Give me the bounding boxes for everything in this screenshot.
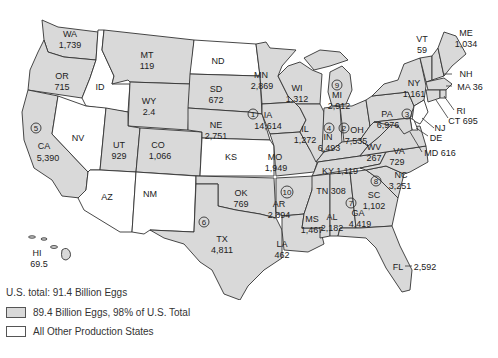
state-ri xyxy=(440,90,446,98)
legend-total: U.S. total: 91.4 Billion Eggs xyxy=(6,287,190,298)
svg-text:VT: VT xyxy=(416,34,428,44)
svg-text:CO: CO xyxy=(151,140,165,150)
svg-text:IN: IN xyxy=(324,132,333,142)
svg-text:WV: WV xyxy=(367,142,382,152)
svg-text:1: 1 xyxy=(251,110,256,119)
svg-text:119: 119 xyxy=(140,61,154,71)
svg-text:59: 59 xyxy=(417,45,427,55)
svg-text:6,976: 6,976 xyxy=(377,120,400,130)
svg-text:4: 4 xyxy=(327,124,332,133)
svg-text:PA: PA xyxy=(381,109,392,119)
svg-text:2,751: 2,751 xyxy=(205,131,228,141)
svg-text:2,592: 2,592 xyxy=(414,262,437,272)
svg-text:14,614: 14,614 xyxy=(254,121,282,131)
svg-text:4,811: 4,811 xyxy=(211,245,233,255)
svg-text:LA: LA xyxy=(276,239,287,249)
svg-text:929: 929 xyxy=(111,151,126,161)
svg-text:9: 9 xyxy=(335,81,340,90)
svg-text:MA 36: MA 36 xyxy=(457,82,483,92)
svg-text:UT: UT xyxy=(113,140,125,150)
svg-text:ND: ND xyxy=(212,56,225,66)
svg-text:267: 267 xyxy=(366,153,381,163)
state-wy xyxy=(128,82,190,130)
svg-text:1,739: 1,739 xyxy=(59,40,82,50)
svg-text:AL: AL xyxy=(326,212,337,222)
legend-label-top-states: 89.4 Billion Eggs, 98% of U.S. Total xyxy=(33,307,190,318)
svg-text:3: 3 xyxy=(405,110,410,119)
svg-text:4,419: 4,419 xyxy=(349,219,372,229)
svg-text:5,390: 5,390 xyxy=(37,153,60,163)
svg-text:7,535: 7,535 xyxy=(345,136,368,146)
state-mi xyxy=(328,66,352,106)
svg-text:AR: AR xyxy=(273,199,286,209)
legend-label-other-states: All Other Production States xyxy=(33,326,154,337)
svg-text:NC: NC xyxy=(395,170,408,180)
us-egg-production-map: WA1,739 OR715 CA5,390 ID NV MT119 WY2.4 … xyxy=(0,0,498,300)
svg-text:729: 729 xyxy=(389,157,404,167)
svg-text:AZ: AZ xyxy=(101,192,113,202)
svg-text:672: 672 xyxy=(208,95,223,105)
svg-text:769: 769 xyxy=(233,199,248,209)
svg-text:TN 308: TN 308 xyxy=(316,186,346,196)
svg-text:NY: NY xyxy=(408,78,421,88)
svg-text:TX: TX xyxy=(216,234,228,244)
svg-text:1,066: 1,066 xyxy=(149,151,172,161)
svg-text:2.4: 2.4 xyxy=(143,107,156,117)
state-ct xyxy=(426,90,440,102)
legend-item-top-states: 89.4 Billion Eggs, 98% of U.S. Total xyxy=(6,304,190,320)
svg-text:69.5: 69.5 xyxy=(30,259,48,269)
state-fl xyxy=(338,226,412,292)
svg-text:IA: IA xyxy=(264,110,273,120)
svg-text:OR: OR xyxy=(55,71,69,81)
svg-text:6: 6 xyxy=(202,218,207,227)
svg-text:2,894: 2,894 xyxy=(268,210,291,220)
svg-text:1,034: 1,034 xyxy=(455,39,478,49)
svg-text:CA: CA xyxy=(38,141,51,151)
state-nd xyxy=(190,40,260,76)
svg-text:MS: MS xyxy=(305,214,319,224)
svg-text:2,182: 2,182 xyxy=(321,223,344,233)
svg-text:1,949: 1,949 xyxy=(265,163,288,173)
svg-text:2,869: 2,869 xyxy=(251,81,274,91)
svg-text:7: 7 xyxy=(349,199,354,208)
svg-text:HI: HI xyxy=(33,248,42,258)
svg-text:NE: NE xyxy=(210,120,223,130)
svg-text:NJ: NJ xyxy=(435,123,446,133)
rank-marker-ar: 10 xyxy=(281,186,293,198)
svg-text:DE: DE xyxy=(430,133,443,143)
svg-text:1,272: 1,272 xyxy=(294,135,317,145)
svg-text:RI: RI xyxy=(457,106,466,116)
svg-text:MN: MN xyxy=(254,70,268,80)
svg-text:SC: SC xyxy=(368,190,381,200)
svg-text:VA: VA xyxy=(393,146,404,156)
svg-text:1,102: 1,102 xyxy=(363,201,386,211)
svg-text:NM: NM xyxy=(143,189,157,199)
svg-text:FL: FL xyxy=(393,262,404,272)
state-nm xyxy=(132,172,196,234)
svg-text:2: 2 xyxy=(342,124,347,133)
svg-text:MO: MO xyxy=(268,152,283,162)
svg-text:3,251: 3,251 xyxy=(389,181,412,191)
svg-text:SD: SD xyxy=(210,84,223,94)
svg-text:5: 5 xyxy=(34,124,39,133)
svg-text:ME: ME xyxy=(459,28,473,38)
svg-text:MD 616: MD 616 xyxy=(424,148,456,158)
svg-text:10: 10 xyxy=(283,188,292,197)
svg-text:KS: KS xyxy=(225,152,237,162)
svg-text:IL: IL xyxy=(301,124,309,134)
svg-text:MI: MI xyxy=(332,90,342,100)
svg-text:8: 8 xyxy=(374,177,379,186)
map-legend: U.S. total: 91.4 Billion Eggs 89.4 Billi… xyxy=(6,287,190,342)
state-sd xyxy=(188,74,262,114)
svg-text:OK: OK xyxy=(234,188,247,198)
legend-swatch-shaded xyxy=(6,307,26,318)
svg-text:462: 462 xyxy=(274,250,289,260)
svg-text:KY 1,119: KY 1,119 xyxy=(322,166,358,176)
svg-text:6,493: 6,493 xyxy=(318,143,341,153)
svg-text:1,161: 1,161 xyxy=(403,89,426,99)
svg-text:CT 695: CT 695 xyxy=(448,116,477,126)
legend-swatch-white xyxy=(6,326,26,337)
svg-text:OH: OH xyxy=(350,125,364,135)
svg-text:2,912: 2,912 xyxy=(328,101,351,111)
svg-text:MT: MT xyxy=(141,50,154,60)
